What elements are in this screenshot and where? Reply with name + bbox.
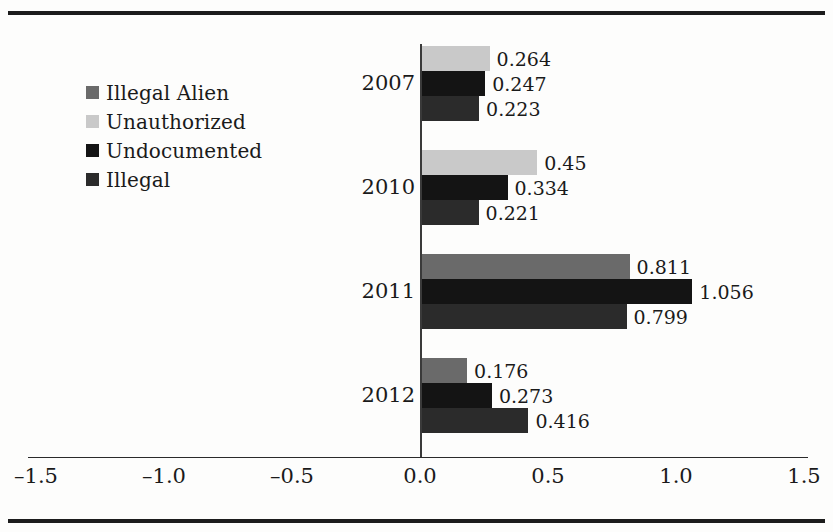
bar-value-label: 0.264	[490, 49, 551, 68]
bar[interactable]	[422, 358, 467, 383]
bar-row: 0.247	[422, 71, 485, 96]
bar-value-label: 0.45	[537, 153, 586, 172]
bar-row: 0.811	[422, 254, 630, 279]
category-label: 2010	[362, 177, 415, 198]
x-tick-label: –1.0	[142, 466, 186, 487]
bar[interactable]	[422, 175, 508, 200]
x-tick-label: –0.5	[270, 466, 314, 487]
x-tick-label: 1.0	[659, 466, 692, 487]
category-label: 2011	[362, 281, 415, 302]
chart-figure: Illegal AlienUnauthorizedUndocumentedIll…	[0, 0, 833, 532]
bar-row: 0.223	[422, 96, 479, 121]
plot-area: 20070.2640.2470.22320100.450.3340.221201…	[0, 0, 833, 532]
bar[interactable]	[422, 304, 627, 329]
bar-row: 0.176	[422, 358, 467, 383]
bar-group: 20120.1760.2730.416	[0, 358, 833, 433]
category-label: 2012	[362, 385, 415, 406]
bar-value-label: 0.416	[528, 411, 589, 430]
bar[interactable]	[422, 71, 485, 96]
bar-row: 0.264	[422, 46, 490, 71]
category-label: 2007	[362, 73, 415, 94]
bar[interactable]	[422, 96, 479, 121]
bar-value-label: 0.334	[508, 178, 569, 197]
bar-value-label: 0.799	[627, 307, 688, 326]
bar-row: 0.416	[422, 408, 528, 433]
bar-row: 0.45	[422, 150, 537, 175]
bar-group: 20070.2640.2470.223	[0, 46, 833, 121]
bar-row: 0.221	[422, 200, 479, 225]
x-axis-tick-labels: –1.5–1.0–0.50.00.51.01.5	[0, 466, 833, 496]
bar-value-label: 0.176	[467, 361, 528, 380]
bar-value-label: 0.223	[479, 99, 540, 118]
bar[interactable]	[422, 408, 528, 433]
bar-row: 1.056	[422, 279, 692, 304]
x-tick-label: 0.5	[531, 466, 564, 487]
bar[interactable]	[422, 279, 692, 304]
x-tick-label: 0.0	[403, 466, 436, 487]
x-axis-line	[28, 457, 808, 458]
bar-row: 0.799	[422, 304, 627, 329]
x-tick-label: 1.5	[787, 466, 820, 487]
bar-group: 20110.8111.0560.799	[0, 254, 833, 329]
bar-value-label: 0.811	[630, 257, 691, 276]
bar[interactable]	[422, 200, 479, 225]
bar[interactable]	[422, 150, 537, 175]
bar-value-label: 0.221	[479, 203, 540, 222]
bar[interactable]	[422, 46, 490, 71]
bar-group: 20100.450.3340.221	[0, 150, 833, 225]
bar-value-label: 0.273	[492, 386, 553, 405]
bar[interactable]	[422, 254, 630, 279]
bar-row: 0.334	[422, 175, 508, 200]
bar-row: 0.273	[422, 383, 492, 408]
bar-value-label: 1.056	[692, 282, 753, 301]
bar[interactable]	[422, 383, 492, 408]
x-tick-label: –1.5	[14, 466, 58, 487]
bar-value-label: 0.247	[485, 74, 546, 93]
